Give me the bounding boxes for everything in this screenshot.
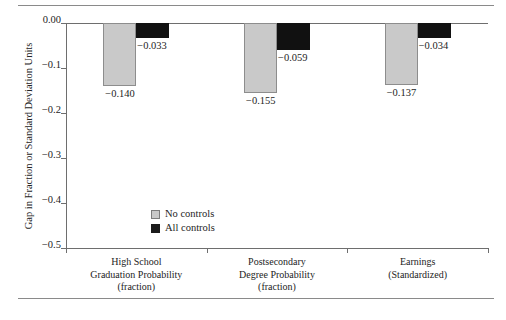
y-tick-0: 0.00 (66, 23, 67, 24)
y-tick-label: −0.3 (42, 150, 61, 161)
x-tick-2 (347, 248, 348, 253)
y-tick-4: −0.4 (66, 203, 67, 204)
y-tick-3: −0.3 (66, 158, 67, 159)
category-label-1: PostsecondaryDegree Probability(fraction… (207, 256, 348, 294)
bar-no-controls-1[interactable] (244, 23, 277, 93)
category-label-2: Earnings(Standardized) (347, 256, 488, 281)
bar-all-controls-1[interactable] (277, 23, 310, 50)
category-label-line: Graduation Probability (66, 269, 207, 282)
y-tick-2: −0.2 (66, 113, 67, 114)
y-axis-line (66, 23, 67, 249)
figure: Gap in Fraction or Standard Deviation Un… (0, 0, 506, 320)
y-tick-mark (61, 68, 67, 69)
y-tick-mark (61, 113, 67, 114)
y-tick-label: −0.5 (42, 240, 61, 251)
legend-label-all-controls: All controls (165, 223, 215, 234)
bar-all-controls-0[interactable] (136, 23, 169, 38)
legend-item-no-controls[interactable]: No controls (151, 208, 215, 221)
x-tick-1 (207, 248, 208, 253)
bar-all-controls-2[interactable] (418, 23, 451, 38)
y-tick-mark (61, 203, 67, 204)
bar-value-label: −0.155 (246, 96, 276, 107)
bottom-rule (18, 298, 494, 299)
top-rule (18, 5, 494, 6)
category-label-0: High SchoolGraduation Probability(fracti… (66, 256, 207, 294)
bar-value-label: −0.140 (105, 89, 135, 100)
y-tick-1: −0.1 (66, 68, 67, 69)
y-tick-label: 0.00 (43, 15, 61, 26)
bar-value-label: −0.137 (387, 88, 417, 99)
plot-area: Gap in Fraction or Standard Deviation Un… (66, 23, 488, 248)
category-label-line: Earnings (347, 256, 488, 269)
bar-value-label: −0.033 (137, 41, 167, 52)
y-tick-label: −0.4 (42, 195, 61, 206)
bar-value-label: −0.034 (419, 41, 449, 52)
y-tick-mark (61, 23, 67, 24)
legend-item-all-controls[interactable]: All controls (151, 222, 215, 235)
x-axis-line (66, 248, 488, 249)
category-label-line: Postsecondary (207, 256, 348, 269)
chart-legend: No controls All controls (151, 208, 215, 236)
y-axis-title: Gap in Fraction or Standard Deviation Un… (22, 23, 36, 249)
y-tick-label: −0.1 (42, 60, 61, 71)
category-label-line: High School (66, 256, 207, 269)
legend-label-no-controls: No controls (165, 209, 214, 220)
bar-no-controls-0[interactable] (103, 23, 136, 86)
x-tick-0 (66, 248, 67, 253)
category-label-line: Degree Probability (207, 269, 348, 282)
category-label-line: (fraction) (66, 281, 207, 294)
y-tick-mark (61, 158, 67, 159)
bar-no-controls-2[interactable] (385, 23, 418, 85)
category-label-line: (Standardized) (347, 269, 488, 282)
category-label-line: (fraction) (207, 281, 348, 294)
y-tick-label: −0.2 (42, 105, 61, 116)
legend-swatch-icon-all-controls (151, 224, 160, 233)
x-tick-3 (488, 248, 489, 253)
legend-swatch-icon-no-controls (151, 210, 160, 219)
bar-value-label: −0.059 (278, 53, 308, 64)
